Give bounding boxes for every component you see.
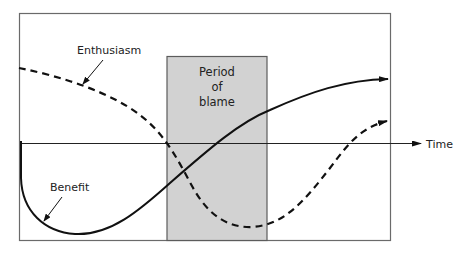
period-label-line2: of — [211, 80, 223, 94]
period-label-line3: blame — [199, 95, 235, 109]
enthusiasm-label: Enthusiasm — [77, 44, 141, 57]
enthusiasm-pointer-arrow — [83, 60, 103, 84]
time-axis-label: Time — [425, 138, 453, 151]
enthusiasm-benefit-diagram: Period of blame Time Enthusiasm Benefit — [0, 0, 465, 253]
benefit-label: Benefit — [50, 181, 90, 194]
period-label-line1: Period — [199, 65, 235, 79]
benefit-pointer-arrow — [44, 197, 62, 221]
